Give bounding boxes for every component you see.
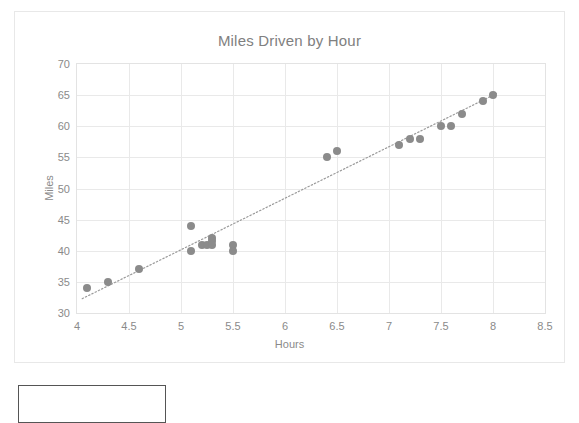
data-point [416,135,424,143]
data-point [229,247,237,255]
y-tick-label: 70 [58,58,70,70]
data-point [104,278,112,286]
gridline-vertical [129,64,130,313]
y-tick-label: 45 [58,214,70,226]
data-point [208,241,216,249]
x-tick-label: 7.5 [433,320,448,332]
y-tick-label: 55 [58,151,70,163]
data-point [406,135,414,143]
x-tick-label: 4.5 [121,320,136,332]
data-point [187,247,195,255]
gridline-vertical [493,64,494,313]
gridline-horizontal [77,157,545,158]
y-tick-label: 30 [58,307,70,319]
chart-title: Miles Driven by Hour [15,32,564,49]
data-point [479,97,487,105]
data-point [458,110,466,118]
chart-card: Miles Driven by Hour Miles Hours 3035404… [14,11,565,363]
y-tick-label: 35 [58,276,70,288]
x-tick-label: 4 [74,320,80,332]
data-point [333,147,341,155]
x-tick-label: 5.5 [225,320,240,332]
x-axis-title: Hours [15,338,564,350]
gridline-vertical [441,64,442,313]
gridline-vertical [285,64,286,313]
gridline-vertical [181,64,182,313]
data-point [395,141,403,149]
x-tick-label: 6.5 [329,320,344,332]
data-point [135,265,143,273]
y-tick-label: 65 [58,89,70,101]
data-point [447,122,455,130]
gridline-vertical [233,64,234,313]
y-tick-label: 50 [58,183,70,195]
gridline-horizontal [77,220,545,221]
gridline-horizontal [77,126,545,127]
y-tick-label: 40 [58,245,70,257]
data-point [187,222,195,230]
gridline-vertical [389,64,390,313]
data-point [437,122,445,130]
gridline-horizontal [77,95,545,96]
data-point [489,91,497,99]
x-tick-label: 6 [282,320,288,332]
gridline-horizontal [77,189,545,190]
x-tick-label: 7 [386,320,392,332]
x-tick-label: 5 [178,320,184,332]
y-axis-title: Miles [43,175,55,201]
gridline-horizontal [77,282,545,283]
data-point [323,153,331,161]
plot-area: 303540455055606570 44.555.566.577.588.5 [76,63,546,314]
gridline-vertical [337,64,338,313]
data-point [83,284,91,292]
y-tick-label: 60 [58,120,70,132]
empty-answer-box[interactable] [18,385,166,423]
gridline-horizontal [77,251,545,252]
x-tick-label: 8.5 [537,320,552,332]
x-tick-label: 8 [490,320,496,332]
